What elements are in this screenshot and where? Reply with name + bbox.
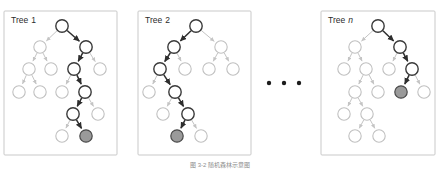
panel-label-value: 1 — [31, 15, 36, 25]
tree-node-on-path — [80, 41, 92, 53]
tree-node-on-path — [394, 41, 406, 53]
tree-panel-tree-n: Treen — [321, 11, 435, 155]
panel-label-value: 2 — [165, 15, 170, 25]
tree-panels: Tree1Tree2Treen — [4, 11, 435, 155]
tree-node — [94, 63, 106, 75]
tree-node — [360, 63, 372, 75]
tree-node — [157, 108, 169, 120]
panel-label-tree-n: Treen — [328, 15, 353, 25]
panel-label-prefix: Tree — [145, 15, 162, 25]
ellipsis-dot — [267, 81, 271, 85]
tree-node-prediction-leaf — [80, 130, 92, 142]
tree-node — [34, 86, 46, 98]
tree-node — [361, 108, 373, 120]
tree-node-on-path — [68, 63, 80, 75]
tree-node-on-path — [372, 20, 384, 32]
tree-node-on-path — [406, 63, 418, 75]
tree-node — [349, 130, 361, 142]
tree-node-on-path — [182, 108, 194, 120]
tree-panel-tree-2: Tree2 — [138, 11, 251, 155]
tree-node — [372, 86, 384, 98]
tree-node-on-path — [190, 20, 202, 32]
ellipsis-group — [267, 81, 301, 85]
tree-node — [227, 63, 239, 75]
tree-node-on-path — [154, 63, 166, 75]
tree-node — [338, 108, 350, 120]
ellipsis-dot — [282, 81, 286, 85]
tree-node — [179, 63, 191, 75]
tree-node — [13, 86, 25, 98]
figure-caption-group: 图 3-2 随机森林示意图 — [190, 161, 250, 169]
tree-node-on-path — [168, 41, 180, 53]
tree-panel-tree-1: Tree1 — [4, 11, 117, 155]
tree-node — [143, 86, 155, 98]
panel-label-prefix: Tree — [11, 15, 28, 25]
tree-node-on-path — [169, 86, 181, 98]
tree-node-on-path — [56, 20, 68, 32]
tree-node — [338, 63, 350, 75]
panel-label-tree-2: Tree2 — [145, 15, 170, 25]
ellipsis-dot — [297, 81, 301, 85]
panel-label-prefix: Tree — [328, 15, 345, 25]
tree-node — [418, 86, 430, 98]
tree-node — [92, 108, 104, 120]
tree-node — [195, 130, 207, 142]
tree-node — [203, 63, 215, 75]
tree-node — [349, 41, 361, 53]
panel-label-value: n — [348, 15, 353, 25]
tree-node — [215, 41, 227, 53]
random-forest-figure: Tree1Tree2Treen 图 3-2 随机森林示意图 — [0, 0, 440, 172]
tree-node — [56, 86, 68, 98]
tree-node — [23, 63, 35, 75]
tree-node-prediction-leaf — [395, 86, 407, 98]
tree-node — [34, 41, 46, 53]
tree-node — [349, 86, 361, 98]
tree-node-on-path — [79, 86, 91, 98]
panel-label-tree-1: Tree1 — [11, 15, 36, 25]
tree-node — [56, 130, 68, 142]
tree-node — [45, 63, 57, 75]
figure-caption: 图 3-2 随机森林示意图 — [190, 161, 250, 169]
tree-node-on-path — [67, 108, 79, 120]
tree-node-prediction-leaf — [171, 130, 183, 142]
tree-node — [383, 63, 395, 75]
tree-node — [373, 130, 385, 142]
